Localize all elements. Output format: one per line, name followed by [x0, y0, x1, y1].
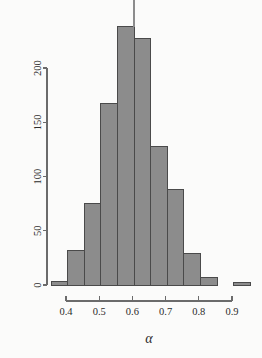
histogram-plot: 050100150200 0.40.50.60.70.80.9 α: [0, 0, 262, 358]
y-axis-tick-label: 150: [32, 114, 43, 130]
histogram-bar: [184, 254, 201, 285]
x-axis-tick-label: 0.7: [159, 306, 172, 317]
histogram-bar: [101, 104, 118, 285]
x-axis-tick-label: 0.8: [192, 306, 205, 317]
histogram-bar: [51, 282, 68, 285]
histogram-figure: 050100150200 0.40.50.60.70.80.9 α: [0, 0, 262, 358]
x-axis-tick-label: 0.4: [59, 306, 73, 317]
x-axis-tick-label: 0.6: [126, 306, 139, 317]
y-axis-tick-label: 100: [32, 169, 43, 185]
y-axis-tick-label: 0: [32, 282, 43, 287]
x-axis-tick-label: 0.9: [225, 306, 238, 317]
histogram-bar: [134, 39, 151, 285]
x-axis-tick-label: 0.5: [93, 306, 106, 317]
median-tick-line: [133, 0, 136, 27]
histogram-bar: [68, 250, 85, 285]
histogram-bar: [151, 146, 168, 285]
histogram-bar: [117, 27, 134, 285]
y-axis-tick-label: 50: [32, 226, 43, 237]
histogram-bar: [167, 190, 184, 285]
y-axis-tick-label: 200: [32, 60, 43, 76]
x-axis-title: α: [145, 331, 153, 346]
median-tick-marker: [133, 0, 136, 27]
histogram-bar: [84, 204, 101, 285]
histogram-bar: [234, 283, 251, 285]
histogram-bar: [200, 277, 217, 285]
